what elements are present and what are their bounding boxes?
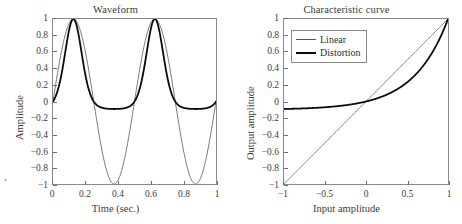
y-tick-mark xyxy=(53,118,57,119)
legend-line-distortion-icon xyxy=(296,52,316,54)
y-tick-label: −1 xyxy=(18,180,48,190)
y-tick-label: 0.6 xyxy=(249,46,279,56)
y-tick-mark xyxy=(284,102,288,103)
waveform-plot-area xyxy=(52,18,217,185)
figure-canvas: Waveform Amplitude 10.80.60.40.20−0.2−0.… xyxy=(0,0,462,224)
x-tick-label: 0.4 xyxy=(112,189,124,199)
x-tick-label: 0 xyxy=(50,189,55,199)
x-tick-mark xyxy=(325,181,326,185)
x-tick-mark xyxy=(366,181,367,185)
y-tick-label: 1 xyxy=(249,13,279,23)
legend-item-linear: Linear xyxy=(296,33,361,46)
characteristic-legend: Linear Distortion xyxy=(291,30,367,63)
y-tick-label: 0.2 xyxy=(18,80,48,90)
y-tick-mark xyxy=(284,185,288,186)
y-tick-label: 0.2 xyxy=(249,80,279,90)
y-tick-mark xyxy=(284,85,288,86)
y-tick-mark xyxy=(284,68,288,69)
y-tick-mark xyxy=(284,135,288,136)
y-tick-label: −0.8 xyxy=(18,163,48,173)
y-tick-label: −0.2 xyxy=(249,113,279,123)
y-tick-mark xyxy=(284,152,288,153)
legend-label-linear: Linear xyxy=(320,34,346,46)
legend-label-distortion: Distortion xyxy=(320,47,361,59)
y-tick-label: −0.2 xyxy=(18,113,48,123)
y-tick-label: 0.6 xyxy=(18,46,48,56)
x-tick-label: 0 xyxy=(364,189,369,199)
x-tick-mark xyxy=(52,181,53,185)
y-tick-label: −1 xyxy=(249,180,279,190)
y-tick-mark xyxy=(53,51,57,52)
x-tick-label: 0.5 xyxy=(402,189,414,199)
y-tick-label: −0.4 xyxy=(18,130,48,140)
y-tick-label: 0.4 xyxy=(249,63,279,73)
characteristic-x-axis-label: Input amplitude xyxy=(231,203,462,214)
y-tick-label: 0.8 xyxy=(249,30,279,40)
y-tick-mark xyxy=(284,51,288,52)
x-tick-mark xyxy=(151,181,152,185)
x-tick-mark xyxy=(85,181,86,185)
y-tick-label: 1 xyxy=(18,13,48,23)
series-line-distortion xyxy=(53,19,216,109)
y-tick-mark xyxy=(53,135,57,136)
y-tick-label: −0.8 xyxy=(249,163,279,173)
x-tick-label: 1 xyxy=(447,189,452,199)
y-tick-label: 0.8 xyxy=(18,30,48,40)
x-tick-mark xyxy=(118,181,119,185)
x-tick-label: 1 xyxy=(215,189,220,199)
y-tick-mark xyxy=(284,18,288,19)
y-tick-mark xyxy=(53,168,57,169)
y-tick-label: −0.6 xyxy=(18,147,48,157)
y-tick-mark xyxy=(53,85,57,86)
panel-waveform: Waveform Amplitude 10.80.60.40.20−0.2−0.… xyxy=(0,0,231,224)
y-tick-mark xyxy=(53,35,57,36)
panel-characteristic-curve: Characteristic curve Output amplitude 10… xyxy=(231,0,462,224)
x-tick-label: 0.2 xyxy=(79,189,91,199)
y-tick-label: −0.6 xyxy=(249,147,279,157)
y-tick-mark xyxy=(284,118,288,119)
y-tick-label: 0 xyxy=(249,97,279,107)
y-tick-label: −0.4 xyxy=(249,130,279,140)
x-tick-mark xyxy=(449,181,450,185)
y-tick-label: 0 xyxy=(18,97,48,107)
y-tick-mark xyxy=(53,102,57,103)
legend-line-linear-icon xyxy=(296,39,316,40)
y-tick-mark xyxy=(53,68,57,69)
x-tick-mark xyxy=(217,181,218,185)
y-tick-mark xyxy=(284,168,288,169)
y-tick-label: 0.4 xyxy=(18,63,48,73)
waveform-x-axis-label: Time (sec.) xyxy=(0,203,231,214)
waveform-plot-svg xyxy=(53,19,216,184)
y-tick-mark xyxy=(53,18,57,19)
y-tick-mark xyxy=(53,152,57,153)
corner-dot-mark: • xyxy=(4,176,7,185)
y-tick-mark xyxy=(284,35,288,36)
x-tick-mark xyxy=(408,181,409,185)
x-tick-label: −0.5 xyxy=(316,189,333,199)
x-tick-label: 0.6 xyxy=(145,189,157,199)
legend-item-distortion: Distortion xyxy=(296,46,361,59)
y-tick-mark xyxy=(53,185,57,186)
x-tick-label: 0.8 xyxy=(178,189,190,199)
x-tick-label: −1 xyxy=(278,189,288,199)
x-tick-mark xyxy=(283,181,284,185)
x-tick-mark xyxy=(184,181,185,185)
